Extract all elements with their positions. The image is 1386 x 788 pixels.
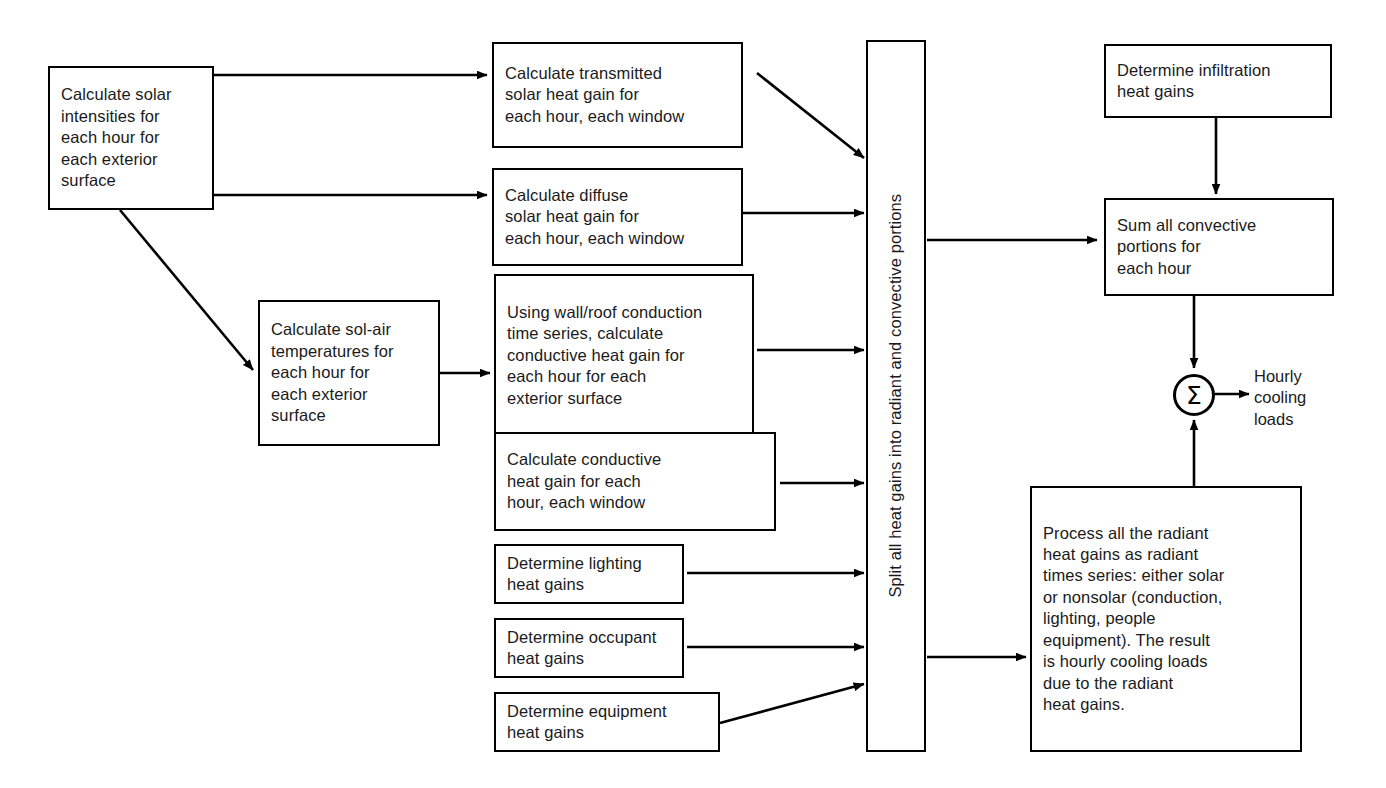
node-calculate-transmitted-solar-heat-gain[interactable]: Calculate transmitted solar heat gain fo… xyxy=(492,42,743,148)
node-calculate-window-conductive-heat-gain[interactable]: Calculate conductive heat gain for each … xyxy=(494,432,776,531)
node-sum-all-convective-portions[interactable]: Sum all convective portions for each hou… xyxy=(1104,198,1334,296)
node-split-heat-gains-column[interactable]: Split all heat gains into radiant and co… xyxy=(866,40,926,752)
output-label-hourly-cooling-loads: Hourly cooling loads xyxy=(1254,366,1364,430)
node-label: Using wall/roof conduction time series, … xyxy=(507,302,702,409)
edge-transmitted-to-split xyxy=(757,73,864,158)
edge-solar-to-solair xyxy=(120,210,253,370)
node-determine-equipment-heat-gains[interactable]: Determine equipment heat gains xyxy=(494,692,720,752)
edge-equipment-to-split xyxy=(720,684,864,723)
node-label: Sum all convective portions for each hou… xyxy=(1117,215,1256,279)
sigma-icon: Σ xyxy=(1186,383,1202,408)
node-wall-roof-conduction-time-series[interactable]: Using wall/roof conduction time series, … xyxy=(494,274,754,437)
summation-node[interactable]: Σ xyxy=(1173,374,1215,416)
node-determine-occupant-heat-gains[interactable]: Determine occupant heat gains xyxy=(494,618,684,678)
node-label: Calculate conductive heat gain for each … xyxy=(507,449,661,513)
node-determine-lighting-heat-gains[interactable]: Determine lighting heat gains xyxy=(494,544,684,604)
node-label: Determine equipment heat gains xyxy=(507,701,667,744)
flowchart-canvas: Calculate solar intensities for each hou… xyxy=(0,0,1386,788)
node-calculate-sol-air-temperatures[interactable]: Calculate sol-air temperatures for each … xyxy=(258,300,440,446)
node-label: Calculate solar intensities for each hou… xyxy=(61,84,172,191)
node-label: Calculate diffuse solar heat gain for ea… xyxy=(505,185,684,249)
node-label: Determine occupant heat gains xyxy=(507,627,656,670)
node-label: Split all heat gains into radiant and co… xyxy=(885,194,906,598)
node-label: Calculate transmitted solar heat gain fo… xyxy=(505,63,684,127)
node-process-radiant-heat-gains[interactable]: Process all the radiant heat gains as ra… xyxy=(1030,486,1302,752)
node-calculate-diffuse-solar-heat-gain[interactable]: Calculate diffuse solar heat gain for ea… xyxy=(492,168,743,266)
node-label: Process all the radiant heat gains as ra… xyxy=(1043,523,1224,716)
node-label: Determine lighting heat gains xyxy=(507,553,642,596)
node-label: Calculate sol-air temperatures for each … xyxy=(271,319,394,426)
node-determine-infiltration-heat-gains[interactable]: Determine infiltration heat gains xyxy=(1104,44,1332,118)
node-calculate-solar-intensities[interactable]: Calculate solar intensities for each hou… xyxy=(48,66,214,210)
node-label: Determine infiltration heat gains xyxy=(1117,60,1271,103)
